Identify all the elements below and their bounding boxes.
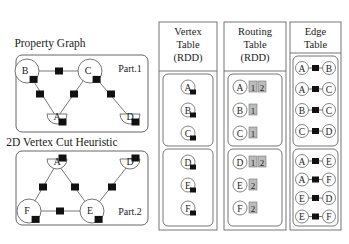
graph-vertex: E (80, 199, 104, 223)
graph-vertex: D (120, 111, 140, 126)
table-title-line: Table (176, 39, 200, 50)
edge-data-icon (107, 91, 115, 98)
vertex-data-icon (59, 119, 67, 126)
graph-vertex: C (78, 59, 102, 83)
vertex-label: E (87, 205, 93, 216)
vertex-label: F (237, 204, 242, 214)
vertex-data-icon (190, 90, 196, 95)
vertex-data-icon (190, 188, 196, 193)
table-title-line: Table (243, 39, 267, 50)
table-title-line: Edge (305, 26, 327, 37)
vertex-data-icon (132, 119, 140, 126)
vertex-table: VertexTable(RDD)ABCDEF (159, 22, 217, 230)
partition-id: 1 (251, 106, 256, 116)
vertex-label: E (299, 212, 305, 222)
vertex-label: C (326, 85, 332, 95)
vertex-label: E (237, 181, 243, 191)
vertex-label: D (237, 158, 244, 168)
edge-data-icon (312, 158, 319, 164)
vertex-label: B (237, 106, 243, 116)
edge-data-icon (312, 214, 319, 220)
vertex-data-icon (95, 216, 103, 223)
edge-data-icon (312, 177, 319, 183)
vertex-label: F (24, 205, 30, 216)
edge-data-icon (56, 208, 64, 215)
edge-data-icon (70, 91, 78, 98)
vertex-label: B (326, 64, 332, 74)
vertex-data-icon (59, 155, 67, 162)
partition-id: 1 (251, 83, 256, 93)
vertex-label: B (299, 106, 305, 116)
vertex-label: C (85, 65, 92, 76)
vertex-label: C (326, 106, 332, 116)
edge-data-icon (108, 184, 116, 191)
vertex-data-icon (32, 216, 40, 223)
vertex-data-icon (30, 76, 38, 83)
graph-title: 2D Vertex Cut Heuristic (6, 136, 117, 148)
diagram-canvas: Property GraphPart.1BCAD2D Vertex Cut He… (0, 0, 349, 244)
vertex-label: D (326, 194, 333, 204)
vertex-label: E (326, 157, 332, 167)
vertex-label: D (326, 127, 333, 137)
edge-data-icon (312, 107, 319, 113)
vertex-label: F (326, 175, 331, 185)
table-title-line: (RDD) (173, 52, 203, 64)
table-title-line: Vertex (174, 26, 202, 37)
property-graph: Property GraphPart.1BCAD (14, 37, 148, 132)
partition-label: Part.1 (118, 63, 142, 74)
vertex-label: A (299, 85, 306, 95)
vertex-label: E (299, 194, 305, 204)
graph-vertex: F (17, 199, 41, 223)
vertex-label: C (299, 127, 305, 137)
graph-vertex: A (47, 155, 67, 170)
vertex-label: F (185, 204, 190, 214)
edge-data-icon (312, 128, 319, 134)
vertex-cut-graph: 2D Vertex Cut HeuristicPart.2ADFE (6, 136, 148, 225)
graph-vertex: B (15, 59, 39, 83)
graph-vertex: D (120, 155, 140, 170)
vertex-data-icon (190, 113, 196, 118)
partition-label: Part.2 (118, 206, 142, 217)
vertex-data-icon (93, 76, 101, 83)
vertex-data-icon (190, 211, 196, 216)
edge-data-icon (71, 184, 79, 191)
table-title-line: (RDD) (240, 52, 270, 64)
vertex-label: B (22, 65, 29, 76)
edge-data-icon (55, 68, 63, 75)
partition-id: 2 (251, 204, 256, 214)
vertex-data-icon (190, 165, 196, 170)
vertex-label: A (299, 64, 306, 74)
partition-id: 1 (251, 158, 256, 168)
vertex-data-icon (190, 136, 196, 141)
edge-data-icon (36, 91, 44, 98)
graph-title: Property Graph (14, 37, 85, 50)
partition-id: 1 (251, 129, 256, 139)
partition-id: 2 (260, 158, 265, 168)
edge-data-icon (312, 195, 319, 201)
vertex-label: A (299, 157, 306, 167)
vertex-label: F (326, 212, 331, 222)
edge-data-icon (312, 65, 319, 71)
routing-table: RoutingTable(RDD)A12B1C1D12E2F2 (224, 22, 286, 230)
edge-data-icon (39, 184, 47, 191)
partition-id: 2 (260, 83, 265, 93)
vertex-label: C (237, 129, 243, 139)
vertex-label: A (299, 175, 306, 185)
vertex-label: A (237, 83, 244, 93)
edge-table: EdgeTableABACBCCDAEAFEDEF (290, 22, 341, 230)
table-title-line: Table (304, 39, 328, 50)
graph-vertex: A (47, 111, 67, 126)
table-title-line: Routing (238, 26, 273, 37)
vertex-data-icon (132, 155, 140, 162)
edge-data-icon (312, 86, 319, 92)
partition-id: 2 (251, 181, 256, 191)
